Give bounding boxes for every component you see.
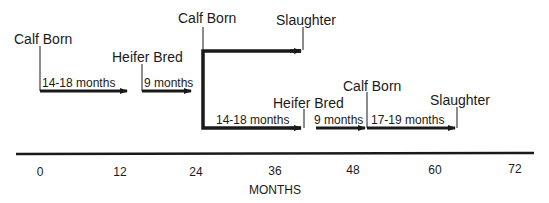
axis-tick-60: 60 bbox=[428, 164, 441, 176]
axis-tick-24: 24 bbox=[189, 166, 202, 178]
months-axis-line bbox=[16, 153, 534, 154]
axis-tick-36: 36 bbox=[268, 165, 281, 177]
axis-title-months: MONTHS bbox=[249, 184, 301, 196]
duration-14-18-months-2: 14-18 months bbox=[216, 114, 289, 126]
event-heifer-bred-1: Heifer Bred bbox=[112, 50, 183, 64]
event-slaughter-2: Slaughter bbox=[430, 93, 490, 107]
event-calf-born-2: Calf Born bbox=[178, 11, 236, 25]
event-slaughter-1: Slaughter bbox=[276, 13, 336, 27]
duration-9-months-2: 9 months bbox=[314, 114, 363, 126]
axis-tick-48: 48 bbox=[346, 164, 359, 176]
duration-9-months-1: 9 months bbox=[144, 77, 193, 89]
event-calf-born-3: Calf Born bbox=[343, 79, 401, 93]
duration-14-18-months-1: 14-18 months bbox=[42, 77, 115, 89]
axis-tick-72: 72 bbox=[508, 163, 521, 175]
event-heifer-bred-2: Heifer Bred bbox=[273, 96, 344, 110]
event-calf-born-1: Calf Born bbox=[14, 32, 72, 46]
axis-tick-0: 0 bbox=[37, 166, 44, 178]
duration-17-19-months: 17-19 months bbox=[371, 114, 444, 126]
axis-tick-12: 12 bbox=[113, 166, 126, 178]
